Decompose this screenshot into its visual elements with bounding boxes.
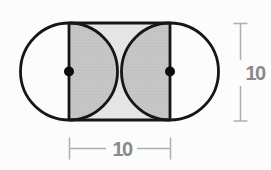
height-dimension: 10 — [234, 24, 266, 122]
right-center-dot — [165, 67, 175, 77]
diagram-svg: 10 10 — [0, 0, 271, 170]
left-center-dot — [64, 67, 74, 77]
width-dimension-label: 10 — [112, 138, 133, 160]
height-dimension-label: 10 — [245, 62, 266, 84]
geometry-diagram: 10 10 — [0, 0, 271, 170]
width-dimension: 10 — [70, 138, 171, 161]
